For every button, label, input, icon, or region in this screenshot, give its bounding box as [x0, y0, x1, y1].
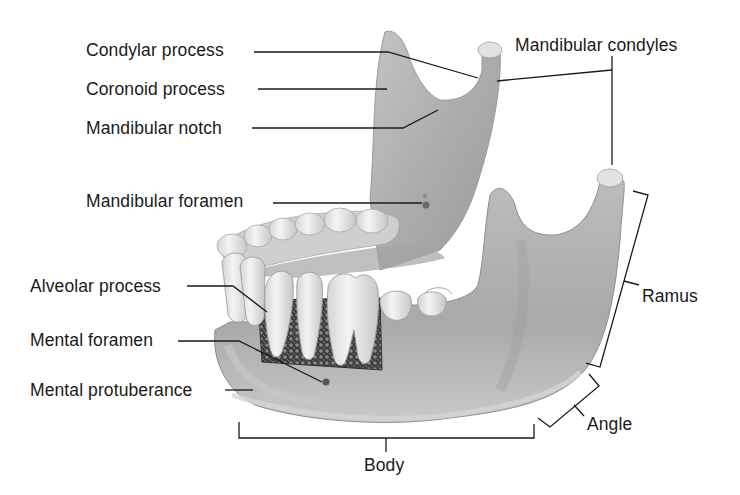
mental-foramen-hole	[323, 379, 330, 386]
label-mental-foramen: Mental foramen	[30, 330, 153, 350]
label-mandibular-condyles: Mandibular condyles	[515, 35, 677, 55]
label-mandibular-notch: Mandibular notch	[86, 118, 222, 138]
label-mental-protuberance: Mental protuberance	[30, 380, 192, 400]
condylar-process-line	[254, 52, 478, 78]
label-alveolar-process: Alveolar process	[30, 276, 161, 296]
label-ramus: Ramus	[642, 286, 698, 306]
label-mandibular-foramen: Mandibular foramen	[86, 191, 243, 211]
near-condyle	[597, 169, 623, 187]
label-condylar-process: Condylar process	[86, 40, 224, 60]
far-condyle	[478, 42, 502, 58]
mandibular-condyles-line	[497, 70, 612, 81]
body-bracket	[239, 422, 534, 438]
label-coronoid-process: Coronoid process	[86, 79, 225, 99]
label-angle: Angle	[587, 414, 632, 434]
mandibular-foramen-hole	[423, 202, 430, 209]
label-body: Body	[364, 455, 404, 475]
mandible-diagram: Condylar process Coronoid process Mandib…	[0, 0, 740, 495]
